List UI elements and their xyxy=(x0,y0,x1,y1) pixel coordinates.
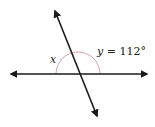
angle-y-label: y = 112° xyxy=(96,45,146,58)
angle-x-label: x xyxy=(50,53,57,66)
transversal-line xyxy=(55,11,97,116)
diagram-canvas: x y = 112° xyxy=(0,0,155,127)
angle-y-value: = 112° xyxy=(103,45,146,58)
angle-arc xyxy=(56,52,100,74)
